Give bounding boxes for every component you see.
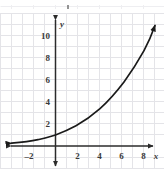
x-tick-label-6: 6 [119,151,124,161]
x-tick-label-4: 4 [97,151,102,161]
y-tick-label-4: 4 [46,97,51,107]
coordinate-plane: –2 2 4 6 8 2 4 6 8 10 y x [0,0,164,173]
x-axis-name: x [153,151,159,161]
graph-figure: –2 2 4 6 8 2 4 6 8 10 y x [0,0,164,173]
y-tick-label-10: 10 [41,31,51,41]
x-tick-label-8: 8 [141,151,146,161]
x-tick-label--2: –2 [24,151,35,161]
y-tick-label-2: 2 [46,119,51,129]
y-tick-label-6: 6 [46,75,51,85]
y-tick-label-8: 8 [46,53,51,63]
x-tick-label-2: 2 [75,151,80,161]
